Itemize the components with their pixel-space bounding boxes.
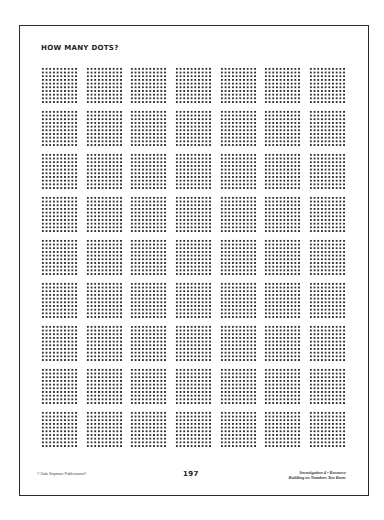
page-number: 197 [183,470,199,478]
copyright-notice: © Dale Seymour Publications® [37,472,86,476]
dot-square [264,153,301,190]
dot-square [309,368,346,405]
dot-square [220,196,257,233]
dot-square [264,196,301,233]
dot-square [41,239,78,276]
dot-square [86,368,123,405]
dot-square [309,325,346,362]
dot-square [264,325,301,362]
dot-square [264,239,301,276]
dot-square [86,196,123,233]
dot-square [175,411,212,448]
dot-square [86,110,123,147]
dot-square [309,239,346,276]
dot-square [130,325,167,362]
dot-square [175,153,212,190]
dot-square [264,67,301,104]
dot-square [309,282,346,319]
dot-square [220,325,257,362]
dot-square [86,411,123,448]
dot-square [130,282,167,319]
dot-square [86,325,123,362]
dot-square [130,239,167,276]
dot-square [86,67,123,104]
dot-square [220,368,257,405]
dot-square [264,368,301,405]
dot-square [220,282,257,319]
dot-square [264,282,301,319]
dot-square [86,239,123,276]
dot-square [175,368,212,405]
dot-square [309,110,346,147]
dot-square [41,67,78,104]
dot-square [175,110,212,147]
dot-square [130,196,167,233]
dot-square [41,110,78,147]
dot-square [41,325,78,362]
dot-square [41,368,78,405]
page-title: HOW MANY DOTS? [41,44,119,52]
footer-reference: Investigation 4 • Resource Building on N… [289,470,346,480]
dot-square [309,153,346,190]
dot-square [130,411,167,448]
dot-square [264,411,301,448]
dot-square [309,67,346,104]
dot-square [220,239,257,276]
dot-square [130,368,167,405]
dot-square [41,411,78,448]
dot-square [175,325,212,362]
dot-square [130,67,167,104]
dot-square [41,196,78,233]
footer-unit-label: Building on Numbers You Know [289,475,346,480]
dot-square [220,153,257,190]
dot-square [175,67,212,104]
dot-square [41,153,78,190]
dot-square [220,67,257,104]
dot-square [175,239,212,276]
dot-square [130,110,167,147]
dot-square [86,282,123,319]
dot-square [41,282,78,319]
dot-square [264,110,301,147]
dot-square [309,411,346,448]
dot-square [86,153,123,190]
dot-square [220,110,257,147]
dot-square [130,153,167,190]
dot-square [220,411,257,448]
dot-square [175,282,212,319]
dot-square [175,196,212,233]
dot-square [309,196,346,233]
